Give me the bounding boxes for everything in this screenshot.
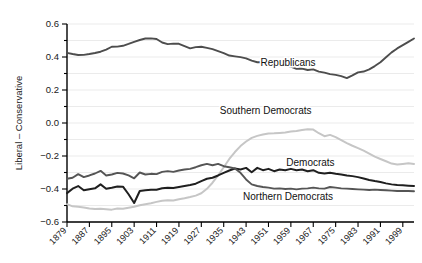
x-tick-label: 1919	[159, 225, 180, 246]
x-tick-label: 1943	[226, 225, 247, 246]
x-tick-label: 1983	[338, 225, 359, 246]
series-line-republicans	[67, 38, 414, 78]
x-tick-label: 1879	[47, 225, 68, 246]
y-tick-label: 0.0	[46, 117, 59, 128]
y-tick-label: −0.2	[40, 150, 59, 161]
x-axis: 1879188718951903191119191927193519431951…	[47, 222, 414, 247]
y-tick-label: 0.6	[46, 18, 59, 29]
y-tick-label: 0.4	[46, 51, 59, 62]
series-label-northern-democrats: Northern Democrats	[243, 191, 333, 202]
line-chart: 0.60.40.20.0−0.2−0.4−0.6 187918871895190…	[0, 0, 422, 263]
chart-figure: 0.60.40.20.0−0.2−0.4−0.6 187918871895190…	[0, 0, 422, 263]
series-lines	[67, 38, 414, 209]
x-tick-label: 1935	[204, 225, 225, 246]
gridlines	[67, 24, 414, 222]
y-axis-title-label: Liberal – Conservative	[13, 76, 24, 171]
series-label-republicans: Republicans	[261, 57, 316, 68]
x-tick-label: 1887	[70, 225, 91, 246]
x-tick-label: 1999	[383, 225, 404, 246]
x-tick-label: 1927	[181, 225, 202, 246]
x-tick-label: 1903	[114, 225, 135, 246]
x-tick-label: 1911	[137, 225, 158, 246]
x-tick-label: 1895	[92, 225, 113, 246]
series-label-democrats: Democrats	[286, 157, 334, 168]
x-tick-label: 1959	[271, 225, 292, 246]
x-tick-label: 1967	[293, 225, 314, 246]
x-tick-label: 1991	[361, 225, 382, 246]
y-axis-title: Liberal – Conservative	[13, 76, 24, 171]
x-tick-label: 1951	[249, 225, 270, 246]
y-tick-label: 0.2	[46, 84, 59, 95]
series-label-southern-democrats: Southern Democrats	[220, 105, 312, 116]
series-labels: RepublicansRepublicansSouthern Democrats…	[220, 57, 335, 202]
y-axis: 0.60.40.20.0−0.2−0.4−0.6	[40, 18, 67, 227]
y-tick-label: −0.4	[40, 183, 59, 194]
x-tick-label: 1975	[316, 225, 337, 246]
y-tick-label: −0.6	[40, 216, 59, 227]
